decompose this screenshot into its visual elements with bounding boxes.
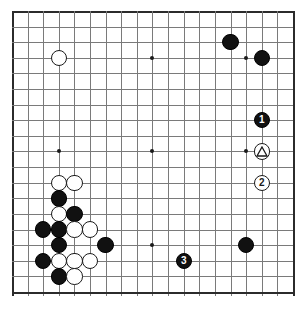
black-stone[interactable] — [97, 237, 113, 253]
black-stone[interactable] — [238, 237, 254, 253]
white-stone[interactable] — [66, 175, 82, 191]
grid-line-vertical — [293, 11, 295, 296]
black-move-1[interactable]: 1 — [254, 112, 270, 128]
white-stone[interactable] — [66, 253, 82, 269]
grid-line-vertical — [246, 11, 247, 296]
white-stone[interactable] — [82, 221, 98, 237]
black-stone[interactable] — [222, 34, 238, 50]
black-stone[interactable] — [66, 206, 82, 222]
star-point — [57, 149, 61, 153]
black-stone[interactable] — [51, 221, 67, 237]
black-stone[interactable] — [254, 50, 270, 66]
grid-line-vertical — [168, 11, 169, 296]
black-stone[interactable] — [51, 268, 67, 284]
stone-move-number: 3 — [177, 254, 191, 268]
stone-move-number: 2 — [255, 176, 269, 190]
black-stone[interactable] — [51, 237, 67, 253]
triangle-icon — [255, 144, 269, 158]
black-stone[interactable] — [51, 190, 67, 206]
star-point — [150, 56, 154, 60]
grid-line-vertical — [152, 11, 153, 296]
black-stone[interactable] — [35, 221, 51, 237]
grid-line-vertical — [231, 11, 232, 296]
white-stone[interactable] — [51, 175, 67, 191]
white-stone[interactable] — [66, 221, 82, 237]
go-board[interactable]: 123 — [12, 11, 294, 296]
star-point — [150, 149, 154, 153]
grid-line-vertical — [199, 11, 200, 296]
black-stone[interactable] — [35, 253, 51, 269]
star-point — [150, 243, 154, 247]
star-point — [244, 56, 248, 60]
star-point — [244, 149, 248, 153]
grid-line-vertical — [137, 11, 138, 296]
grid-line-vertical — [277, 11, 278, 296]
white-stone[interactable] — [51, 206, 67, 222]
grid-line-vertical — [121, 11, 122, 296]
white-stone[interactable] — [82, 253, 98, 269]
grid-line-vertical — [215, 11, 216, 296]
grid-line-vertical — [106, 11, 107, 296]
grid-line-vertical — [12, 11, 14, 296]
grid-line-horizontal — [12, 292, 294, 294]
grid-line-horizontal — [12, 167, 294, 168]
white-stone[interactable] — [51, 50, 67, 66]
white-stone[interactable] — [51, 253, 67, 269]
grid-line-vertical — [28, 11, 29, 296]
white-stone[interactable] — [66, 268, 82, 284]
go-diagram: 123 — [0, 0, 305, 310]
white-move-2[interactable]: 2 — [254, 175, 270, 191]
white-stone-triangle[interactable] — [254, 143, 270, 159]
black-move-3[interactable]: 3 — [176, 253, 192, 269]
stone-move-number: 1 — [255, 113, 269, 127]
